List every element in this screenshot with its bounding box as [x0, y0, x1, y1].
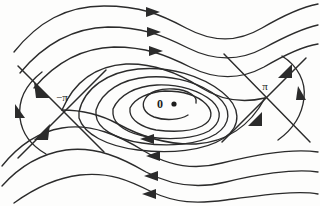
- fixed-point-center-dot: [171, 101, 176, 106]
- arrow-into-saddle-left-upper: [34, 82, 50, 98]
- streamline-closed-orbit-2: [130, 91, 211, 131]
- streamline-running-above-2: [20, 25, 318, 73]
- streamline-outside-left-arc: [20, 72, 46, 154]
- phase-portrait-svg: 0 −π π: [0, 0, 320, 206]
- label-saddle-left-minus-pi: −π: [56, 91, 68, 103]
- streamline-running-above-3: [14, 4, 318, 52]
- separatrix-upper: [62, 64, 265, 110]
- label-center-zero: 0: [157, 97, 163, 111]
- arrow-left-running-below-1: [146, 151, 160, 161]
- streamline-running-below-3: [14, 174, 318, 203]
- separatrix-lower: [62, 98, 265, 144]
- phase-portrait-figure: 0 −π π: [0, 0, 320, 206]
- arrow-up-right-saddle-right-outer: [278, 64, 292, 78]
- streamline-running-above-1: [34, 44, 318, 88]
- arrow-outof-saddle-left-lower: [34, 124, 50, 140]
- label-saddle-right-pi: π: [262, 80, 268, 92]
